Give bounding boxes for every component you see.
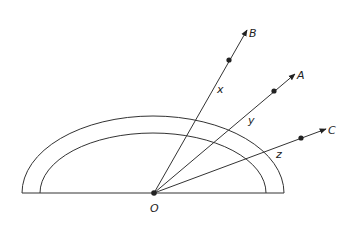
inner-arc — [40, 133, 266, 193]
point-on-ray-c — [298, 135, 303, 140]
angle-label-x: x — [216, 83, 224, 96]
label-o: O — [150, 202, 159, 215]
ray-ob — [154, 30, 247, 193]
angle-label-z: z — [275, 148, 282, 161]
point-on-ray-a — [271, 88, 276, 93]
outer-arc — [22, 116, 284, 193]
label-a: A — [296, 69, 305, 82]
diagram-labels: BxAyCzO — [150, 27, 336, 215]
diagram-shapes — [22, 30, 326, 196]
origin-point — [151, 190, 157, 196]
angle-label-y: y — [247, 114, 255, 127]
protractor-diagram: BxAyCzO — [0, 0, 352, 227]
point-on-ray-b — [226, 57, 231, 62]
label-b: B — [249, 27, 257, 40]
label-c: C — [328, 124, 336, 137]
